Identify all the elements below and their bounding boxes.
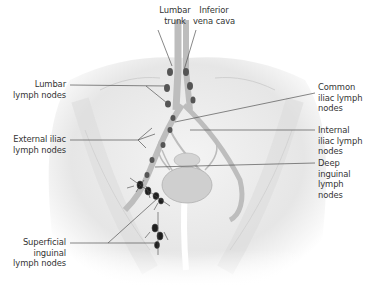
label-line: lymph nodes — [0, 258, 66, 269]
label-common-iliac-lymph-nodes: Common iliac lymph nodes — [318, 82, 374, 114]
label-line: Inferior — [184, 5, 244, 16]
label-line: lymph — [318, 179, 374, 190]
label-external-iliac-lymph-nodes: External iliac lymph nodes — [0, 134, 66, 155]
label-line: lymph nodes — [0, 145, 66, 156]
label-line: Superficial — [0, 237, 66, 248]
label-line: inguinal — [318, 169, 374, 180]
label-deep-inguinal-lymph-nodes: Deep inguinal lymph nodes — [318, 158, 374, 200]
label-line: Common — [318, 82, 374, 93]
label-line: iliac lymph — [318, 93, 374, 104]
label-line: Lumbar — [0, 79, 66, 90]
label-line: lymph nodes — [0, 90, 66, 101]
label-lumbar-lymph-nodes: Lumbar lymph nodes — [0, 79, 66, 100]
anatomy-diagram: Lumbar trunk Inferior vena cava Lumbar l… — [0, 0, 374, 285]
label-line: Internal — [318, 125, 374, 136]
label-line: External iliac — [0, 134, 66, 145]
label-line: inguinal — [0, 248, 66, 259]
label-line: iliac lymph — [318, 136, 374, 147]
label-line: nodes — [318, 190, 374, 201]
label-inferior-vena-cava: Inferior vena cava — [184, 5, 244, 26]
label-line: nodes — [318, 103, 374, 114]
label-line: Deep — [318, 158, 374, 169]
label-internal-iliac-lymph-nodes: Internal iliac lymph nodes — [318, 125, 374, 157]
label-line: vena cava — [184, 16, 244, 27]
label-superficial-inguinal-lymph-nodes: Superficial inguinal lymph nodes — [0, 237, 66, 269]
label-line: nodes — [318, 146, 374, 157]
